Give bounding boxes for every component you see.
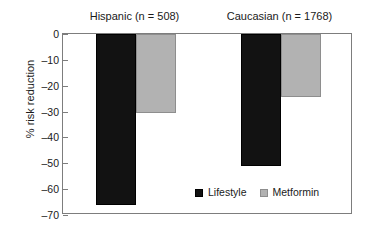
legend-label: Metformin <box>273 186 320 199</box>
legend-entry-lifestyle: Lifestyle <box>195 186 247 199</box>
y-tick-label: –50 <box>41 157 59 170</box>
bar-lifestyle-hispanic <box>96 34 136 205</box>
y-axis-label: % risk reduction <box>24 9 36 189</box>
y-tick-label: –10 <box>41 54 59 67</box>
y-tick: –70 <box>63 215 68 216</box>
y-tick: –30 <box>63 112 68 113</box>
bar-chart-figure: Hispanic (n = 508) Caucasian (n = 1768) … <box>0 0 366 235</box>
y-tick-label: –70 <box>41 209 59 222</box>
y-tick-label: –20 <box>41 80 59 93</box>
bar-metformin-hispanic <box>136 34 176 113</box>
y-tick: –50 <box>63 163 68 164</box>
y-tick-label: –60 <box>41 183 59 196</box>
chart-legend: LifestyleMetformin <box>195 186 319 199</box>
y-tick: –20 <box>63 86 68 87</box>
y-tick: –40 <box>63 137 68 138</box>
group-title-hispanic: Hispanic (n = 508) <box>62 10 207 23</box>
y-tick: –10 <box>63 60 68 61</box>
bar-lifestyle-caucasian <box>241 34 281 166</box>
group-title-caucasian: Caucasian (n = 1768) <box>207 10 352 23</box>
legend-swatch-metformin-icon <box>260 189 268 197</box>
legend-swatch-lifestyle-icon <box>195 189 203 197</box>
y-tick: –60 <box>63 189 68 190</box>
y-tick-label: 0 <box>53 28 59 41</box>
legend-label: Lifestyle <box>208 186 247 199</box>
y-tick-label: –40 <box>41 131 59 144</box>
y-tick-label: –30 <box>41 106 59 119</box>
y-tick: 0 <box>63 34 68 35</box>
legend-entry-metformin: Metformin <box>260 186 320 199</box>
plot-area: 0–10–20–30–40–50–60–70 LifestyleMetformi… <box>62 33 352 214</box>
bar-metformin-caucasian <box>281 34 321 97</box>
